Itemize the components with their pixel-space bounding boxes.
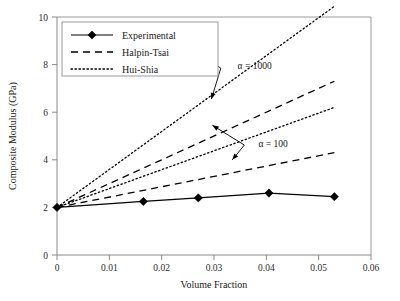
annotation-arrowhead [212,125,219,130]
x-tick-label: 0.05 [310,263,327,273]
x-tick: 0.04 [258,255,275,273]
x-tick-label: 0.01 [101,263,118,273]
x-tick: 0.02 [153,255,170,273]
y-tick: 0 [43,251,57,261]
x-tick-label: 0.04 [258,263,275,273]
x-tick: 0 [55,255,60,273]
annotation-group: α = 100 [212,125,288,160]
x-axis-title: Volume Fraction [181,279,248,290]
x-tick: 0.03 [206,255,223,273]
legend-label: Experimental [122,30,176,41]
y-tick-label: 10 [39,13,49,23]
legend-label: Hui-Shia [122,64,159,75]
x-tick-label: 0.02 [153,263,170,273]
figure-container: 00.010.020.030.040.050.06 0246810 α = 10… [0,0,400,301]
x-tick: 0.05 [310,255,327,273]
data-point-marker [194,194,202,202]
y-tick: 6 [43,108,57,118]
series-line [57,193,334,207]
series-line [57,107,334,207]
y-tick-label: 2 [43,203,48,213]
legend-label: Halpin-Tsai [122,47,169,58]
y-tick: 4 [43,155,57,165]
y-tick-label: 0 [43,251,48,261]
y-axis-title: Composite Modulus (GPa) [7,82,19,190]
data-point-marker [330,193,338,201]
composite-modulus-chart: 00.010.020.030.040.050.06 0246810 α = 10… [0,0,400,301]
y-tick-label: 6 [43,108,48,118]
chart-legend: ExperimentalHalpin-TsaiHui-Shia [62,22,218,76]
series-line [57,81,334,207]
annotation-label: α = 1000 [238,61,272,71]
y-tick-label: 8 [43,60,48,70]
y-tick: 8 [43,60,57,70]
annotation-label: α = 100 [258,139,288,149]
x-tick: 0.06 [363,255,380,273]
y-tick: 10 [39,13,58,23]
x-tick-label: 0.03 [206,263,223,273]
x-tick-label: 0 [55,263,60,273]
x-tick: 0.01 [101,255,118,273]
x-axis-ticks: 00.010.020.030.040.050.06 [55,255,380,273]
data-point-marker [139,197,147,205]
y-tick-label: 4 [43,155,48,165]
y-axis-ticks: 0246810 [39,13,58,261]
data-point-marker [265,189,273,197]
x-tick-label: 0.06 [363,263,380,273]
annotation-arrowhead [211,92,216,99]
